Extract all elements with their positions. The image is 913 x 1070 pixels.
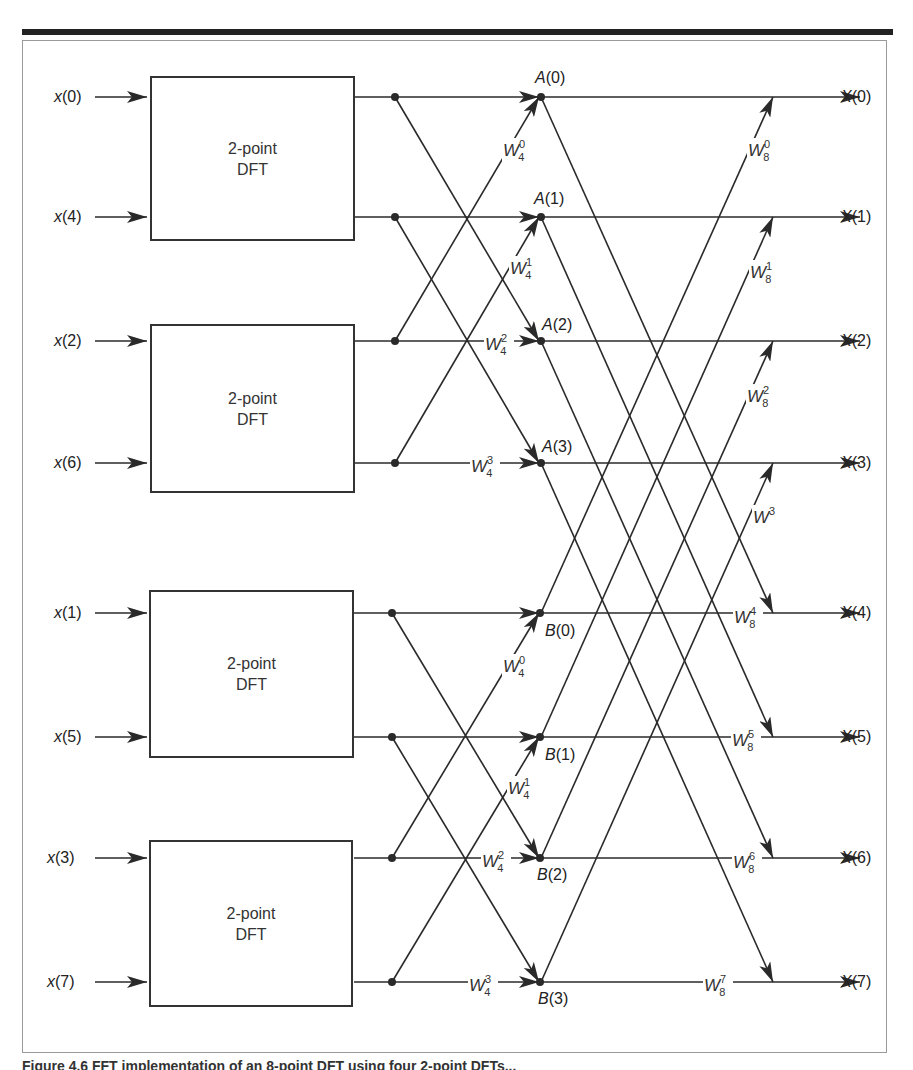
twiddle-w4-1-b: W14 (507, 776, 537, 803)
input-arrows (95, 97, 147, 982)
figure-caption: Figure 4.6 FFT implementation of an 8-po… (22, 1058, 893, 1070)
output-label-x2: X(2) (841, 332, 871, 350)
twiddle-w8-5: W58 (731, 728, 761, 755)
twiddle-w8-2: W28 (746, 384, 776, 411)
twiddle-w4-3-a: W34 (470, 454, 500, 481)
node-label-b1: B(1) (545, 746, 575, 764)
dft-label-line2: DFT (235, 924, 266, 945)
input-label-x6: x(6) (54, 454, 82, 472)
output-label-x6: X(6) (841, 849, 871, 867)
input-label-x7: x(7) (47, 973, 75, 991)
output-label-x1: X(1) (841, 208, 871, 226)
node-label-b0: B(0) (545, 622, 575, 640)
node-label-a0: A(0) (535, 69, 565, 87)
split-nodes (388, 93, 399, 986)
dft-label-line1: 2-point (228, 388, 277, 409)
node-label-a1: A(1) (534, 190, 564, 208)
input-label-x5: x(5) (54, 728, 82, 746)
twiddle-w4-0-a: W04 (502, 138, 532, 165)
twiddle-w8-7: W78 (703, 973, 733, 1000)
twiddle-w8-6: W68 (732, 850, 762, 877)
twiddle-w4-2-a: W24 (484, 332, 514, 359)
node-label-a3: A(3) (542, 438, 572, 456)
dft-label-line1: 2-point (228, 138, 277, 159)
node-label-b2: B(2) (537, 866, 567, 884)
dft-label-line2: DFT (237, 409, 268, 430)
dft-label-line2: DFT (236, 674, 267, 695)
input-label-x0: x(0) (54, 88, 82, 106)
node-label-a2: A(2) (542, 316, 572, 334)
stage3-horizontals (541, 97, 860, 982)
twiddle-w4-1-a: W14 (509, 256, 539, 283)
output-label-x7: X(7) (841, 973, 871, 991)
input-label-x3: x(3) (47, 849, 75, 867)
dft-label-line2: DFT (237, 159, 268, 180)
dft-block-1: 2-point DFT (150, 324, 355, 493)
output-label-x4: X(4) (841, 604, 871, 622)
dft-label-line1: 2-point (227, 903, 276, 924)
input-label-x1: x(1) (54, 604, 82, 622)
input-label-x2: x(2) (54, 332, 82, 350)
dft-block-3: 2-point DFT (149, 840, 353, 1007)
twiddle-w8-1: W18 (749, 260, 779, 287)
twiddle-w8-3: W3 (752, 505, 776, 526)
twiddle-w4-2-b: W24 (481, 849, 511, 876)
output-label-x5: X(5) (841, 728, 871, 746)
twiddle-w8-0: W08 (747, 138, 777, 165)
dft-block-0: 2-point DFT (150, 76, 355, 241)
input-label-x4: x(4) (54, 208, 82, 226)
twiddle-w8-4: W48 (733, 605, 763, 632)
twiddle-w4-3-b: W34 (468, 973, 498, 1000)
box-output-lines (354, 97, 395, 982)
twiddle-w4-0-b: W04 (502, 654, 532, 681)
output-label-x0: X(0) (841, 88, 871, 106)
dft-label-line1: 2-point (227, 653, 276, 674)
output-label-x3: X(3) (841, 454, 871, 472)
dft-block-2: 2-point DFT (149, 590, 354, 758)
node-label-b3: B(3) (538, 990, 568, 1008)
